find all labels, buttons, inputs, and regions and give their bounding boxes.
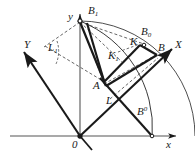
- point-label-B0: B0: [141, 26, 151, 37]
- geometry-figure: y B1 B0 K B X Y L1 K1 A L B0 0 x: [0, 0, 195, 159]
- point-label-B: B: [158, 42, 165, 53]
- point-label-B1: B1: [88, 5, 98, 16]
- point-label-K1: K1: [108, 50, 119, 61]
- node-origin: [77, 133, 82, 138]
- x-axis-label: x: [166, 139, 171, 150]
- node-B1: [78, 19, 82, 23]
- point-label-K: K: [130, 36, 137, 47]
- point-label-L: L: [106, 95, 112, 106]
- y-axis-label: y: [68, 11, 73, 22]
- Y-axis-label: Y: [24, 39, 30, 50]
- point-label-L1: L1: [48, 42, 58, 53]
- X-axis-line: [80, 49, 172, 136]
- point-label-B-zero: B0: [137, 106, 147, 117]
- X-axis-label: X: [175, 39, 182, 50]
- Y-axis-line: [24, 52, 80, 136]
- origin-label: 0: [72, 139, 78, 150]
- point-label-A: A: [93, 80, 100, 91]
- node-B0: [142, 43, 146, 47]
- node-Bzero: [150, 134, 154, 138]
- stub-below-origin: [80, 136, 92, 150]
